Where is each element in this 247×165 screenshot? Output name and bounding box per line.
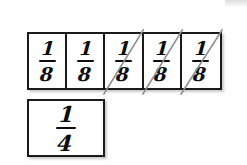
fraction-bar: [192, 60, 209, 62]
fraction-bar: [77, 60, 94, 62]
fraction-numerator: 1: [41, 39, 56, 59]
fraction-numerator: 1: [155, 39, 170, 59]
fraction-cell-eighth-1[interactable]: 1 8: [29, 34, 67, 88]
quarter-box[interactable]: 1 4: [27, 99, 105, 157]
fraction-cell-eighth-5[interactable]: 1 8: [182, 34, 220, 88]
fraction-label: 1 8: [75, 39, 95, 84]
fraction-denominator: 4: [57, 130, 74, 153]
fraction-numerator: 1: [59, 103, 76, 126]
fraction-denominator: 8: [153, 63, 168, 83]
fraction-bar: [153, 60, 170, 62]
diagram-canvas: 1 8 1 8 1 8 1: [0, 0, 247, 165]
fraction-denominator: 8: [193, 63, 208, 83]
fraction-cell-eighth-3[interactable]: 1 8: [105, 34, 143, 88]
fraction-label: 1 8: [152, 39, 172, 84]
fraction-cell-eighth-2[interactable]: 1 8: [67, 34, 105, 88]
fraction-label: 1 8: [37, 39, 57, 84]
fraction-bar: [56, 127, 76, 129]
fraction-cell-eighth-4[interactable]: 1 8: [144, 34, 182, 88]
fraction-bar: [39, 60, 56, 62]
fraction-bar: [115, 60, 132, 62]
fraction-numerator: 1: [79, 39, 94, 59]
fraction-denominator: 8: [39, 63, 54, 83]
fraction-label: 1 8: [191, 39, 211, 84]
fraction-label: 1 4: [54, 103, 78, 154]
scan-artifact: [225, 0, 247, 7]
fraction-denominator: 8: [115, 63, 130, 83]
fraction-denominator: 8: [77, 63, 92, 83]
eighths-strip: 1 8 1 8 1 8 1: [27, 32, 222, 90]
fraction-numerator: 1: [117, 39, 132, 59]
fraction-label: 1 8: [113, 39, 133, 84]
fraction-numerator: 1: [194, 39, 209, 59]
